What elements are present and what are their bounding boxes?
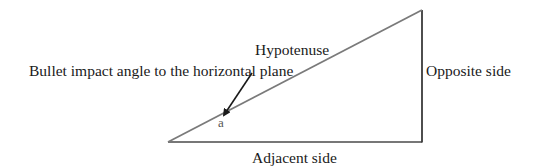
triangle-diagram: Hypotenuse Bullet impact angle to the ho…: [0, 0, 537, 167]
annotation-arrow: [224, 73, 252, 115]
hypotenuse-label: Hypotenuse: [255, 42, 329, 58]
bullet-angle-annotation: Bullet impact angle to the horizontal pl…: [29, 63, 293, 79]
opposite-side-label: Opposite side: [426, 63, 511, 79]
adjacent-side-label: Adjacent side: [252, 150, 337, 166]
triangle-graphic: [0, 0, 537, 167]
angle-label: a: [218, 116, 224, 129]
